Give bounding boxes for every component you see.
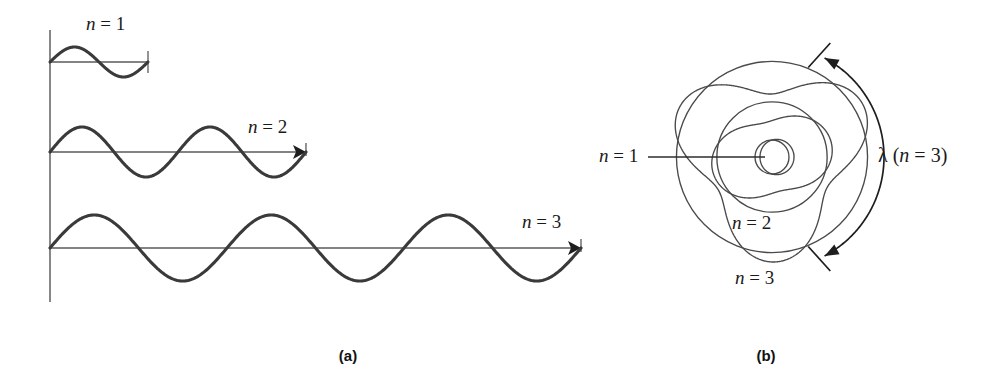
wave-label-n2: n = 2 <box>248 116 287 137</box>
panel-a-caption: (a) <box>339 347 357 364</box>
orbit-group <box>675 61 867 262</box>
standing-wave-orbit-n3 <box>675 83 867 262</box>
wavelength-arrowhead-2 <box>825 244 840 255</box>
wave-label-n3: n = 3 <box>522 211 561 232</box>
panel-b-caption: (b) <box>756 347 775 364</box>
orbit-label-n3: n = 3 <box>735 267 774 288</box>
wavelength-end-tick-2 <box>808 246 830 270</box>
orbit-label-n2: n = 2 <box>732 212 771 233</box>
wave-group <box>50 47 581 281</box>
panel-b <box>648 43 884 271</box>
wave-1 <box>50 47 148 77</box>
wavelength-end-tick-1 <box>808 43 830 68</box>
wavelength-arrowhead-1 <box>825 58 840 69</box>
wavelength-label: λ (n = 3) <box>878 144 947 167</box>
wave-label-n1: n = 1 <box>86 13 125 34</box>
figure-container: n = 1n = 2n = 3n = 1n = 2n = 3λ (n = 3)(… <box>0 0 983 388</box>
wave-3 <box>50 215 581 281</box>
standing-wave-figure: n = 1n = 2n = 3n = 1n = 2n = 3λ (n = 3)(… <box>0 0 983 388</box>
orbit-label-n1: n = 1 <box>599 145 638 166</box>
wavelength-arc-arrow <box>808 43 884 271</box>
label-group: n = 1n = 2n = 3n = 1n = 2n = 3λ (n = 3)(… <box>86 13 947 364</box>
panel-a <box>50 30 581 302</box>
